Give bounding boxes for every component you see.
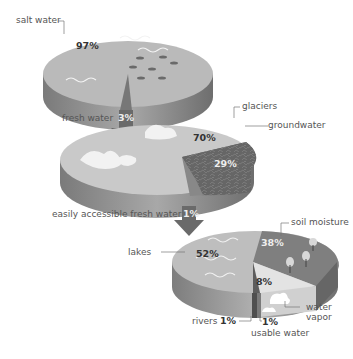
usable-water-percent: 1% (262, 316, 278, 327)
rivers-percent: 1% (220, 315, 236, 326)
water-vapor-percent: 8% (256, 276, 272, 287)
accessible-fresh-water-percent: 1% (183, 208, 199, 219)
water-vapor-label-line2: vapor (306, 312, 332, 323)
salt-water-label: salt water (16, 15, 61, 26)
water-distribution-diagram (0, 0, 353, 359)
usable-water-label: usable water (251, 328, 309, 339)
lakes-label: lakes (128, 247, 151, 258)
accessible-fresh-water-label: easily accessible fresh water (52, 209, 181, 220)
salt-water-percent: 97% (76, 40, 99, 51)
fresh-water-percent: 3% (118, 112, 134, 123)
groundwater-label: groundwater (268, 120, 326, 131)
groundwater-percent: 29% (214, 158, 237, 169)
soil-moisture-percent: 38% (261, 237, 284, 248)
soil-moisture-label: soil moisture (291, 217, 349, 228)
glaciers-label: glaciers (242, 101, 277, 112)
fresh-water-label: fresh water (62, 113, 113, 124)
glaciers-percent: 70% (193, 132, 216, 143)
fresh-water-disk (60, 125, 256, 218)
rivers-label: rivers (192, 316, 217, 327)
lakes-percent: 52% (196, 248, 219, 259)
